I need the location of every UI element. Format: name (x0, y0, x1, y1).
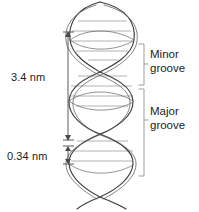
minor-groove-label-line1: Minor (150, 48, 185, 62)
minor-groove-label-line2: groove (150, 62, 185, 76)
minor-groove-bracket (139, 44, 148, 85)
dna-strand-a (69, 2, 134, 209)
crossing-arc (69, 101, 133, 110)
minor-groove-label: Minor groove (150, 48, 185, 75)
dna-strand-a-edge (73, 5, 137, 199)
dna-strand-b (69, 2, 133, 209)
crossing-arc (69, 164, 133, 173)
major-groove-bracket-path (139, 89, 144, 176)
major-groove-label-line2: groove (150, 119, 185, 133)
strand-a-edge-path (73, 5, 137, 199)
major-groove-label: Major groove (150, 105, 185, 132)
rise-arrowhead-up (65, 146, 71, 151)
helix-crossing-arcs (69, 31, 134, 173)
minor-groove-bracket-path (139, 44, 144, 85)
major-groove-label-line1: Major (150, 105, 185, 119)
dna-helix-figure: 3.4 nm 0.34 nm Minor groove Major groove (0, 0, 199, 212)
pitch-measurement-label: 3.4 nm (11, 71, 45, 83)
crossing-arc (70, 31, 134, 40)
rise-measurement-label: 0.34 nm (7, 150, 47, 162)
strand-b-path (69, 2, 133, 209)
crossing-arc (69, 92, 133, 101)
major-groove-bracket (139, 89, 148, 176)
base-pair-rungs (70, 21, 133, 161)
strand-a-path (69, 2, 134, 209)
